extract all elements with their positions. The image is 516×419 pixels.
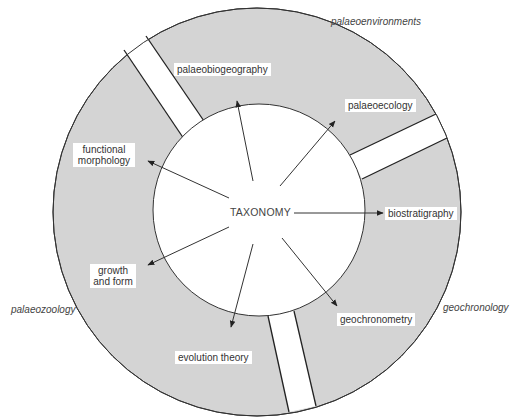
label-functional-line2: morphology <box>76 155 132 166</box>
label-geochronometry: geochronometry <box>337 313 415 326</box>
label-palaeobiogeography: palaeobiogeography <box>174 63 271 76</box>
outer-label-palaeoenvironments: palaeoenvironments <box>331 16 421 27</box>
label-growth-and-form: growth and form <box>90 264 136 288</box>
label-growth-line2: and form <box>93 276 133 287</box>
label-growth-line1: growth <box>93 265 133 276</box>
label-palaeoecology: palaeoecology <box>345 99 416 112</box>
label-evolution-theory: evolution theory <box>175 351 252 364</box>
outer-label-palaeozoology: palaeozoology <box>11 304 76 315</box>
label-functional-morphology: functional morphology <box>73 143 135 167</box>
label-functional-line1: functional <box>76 144 132 155</box>
outer-label-geochronology: geochronology <box>443 302 509 313</box>
label-biostratigraphy: biostratigraphy <box>385 207 457 220</box>
center-label-taxonomy: TAXONOMY <box>230 206 291 218</box>
